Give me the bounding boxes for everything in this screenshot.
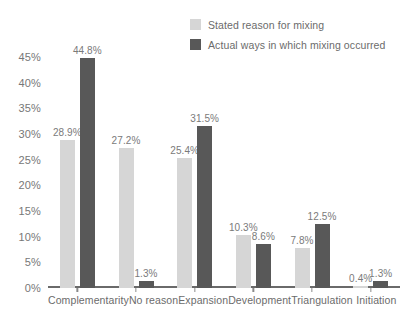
bar-value-label: 25.4% [170, 145, 199, 156]
bar-group: 27.2%1.3% [107, 57, 166, 288]
y-axis-tick-label: 5% [25, 256, 41, 268]
x-axis-category-label: Expansion [178, 294, 228, 306]
bar-group: 7.8%12.5% [283, 57, 342, 288]
bar-slot: 1.3% [139, 57, 154, 288]
bar-slot: 7.8% [295, 57, 310, 288]
x-axis-tick-mark [77, 288, 78, 292]
bar-group-bars: 0.4%1.3% [341, 57, 400, 288]
x-axis-tick-mark [311, 288, 312, 292]
legend-item-stated-reason: Stated reason for mixing [190, 16, 420, 33]
legend-item-actual-ways: Actual ways in which mixing occurred [190, 36, 420, 53]
bar[interactable] [236, 235, 251, 288]
bar-slot: 28.9% [60, 57, 75, 288]
bar-slot: 12.5% [315, 57, 330, 288]
bar-group: 0.4%1.3% [341, 57, 400, 288]
legend-label-stated-reason: Stated reason for mixing [208, 19, 324, 31]
bar-value-label: 1.3% [369, 268, 392, 279]
x-axis-tick-mark [135, 288, 136, 292]
bar-group-bars: 25.4%31.5% [165, 57, 224, 288]
x-axis-tick-mark [253, 288, 254, 292]
y-axis-tick-label: 35% [18, 102, 41, 114]
bar[interactable] [60, 140, 75, 288]
legend-swatch-icon-actual-ways [190, 39, 201, 50]
bar-group: 28.9%44.8% [48, 57, 107, 288]
x-axis-category-label: Initiation [353, 294, 400, 306]
bar[interactable] [80, 58, 95, 288]
bar[interactable] [139, 281, 154, 288]
legend-label-actual-ways: Actual ways in which mixing occurred [208, 39, 386, 51]
x-axis-category-label: No reason [129, 294, 178, 306]
bar[interactable] [197, 126, 212, 288]
bar[interactable] [119, 148, 134, 288]
bar[interactable] [353, 286, 368, 288]
bar-slot: 0.4% [353, 57, 368, 288]
bar-value-label: 12.5% [308, 211, 337, 222]
bar-group-bars: 28.9%44.8% [48, 57, 107, 288]
bar-value-label: 44.8% [73, 45, 102, 56]
x-axis-category-label: Complementarity [48, 294, 129, 306]
x-axis-category-label: Development [228, 294, 291, 306]
y-axis-tick-label: 0% [25, 282, 41, 294]
bar-value-label: 27.2% [112, 135, 141, 146]
bar[interactable] [315, 224, 330, 288]
bar[interactable] [295, 248, 310, 288]
grouped-bar-chart: Stated reason for mixing Actual ways in … [0, 0, 420, 336]
y-axis-tick-label: 30% [18, 128, 41, 140]
bar-value-label: 8.6% [252, 231, 275, 242]
x-axis-tick-mark [370, 288, 371, 292]
y-axis-tick-label: 15% [18, 205, 41, 217]
bar-group-bars: 10.3%8.6% [224, 57, 283, 288]
bar[interactable] [256, 244, 271, 288]
y-axis-tick-label: 10% [18, 231, 41, 243]
bar-group: 25.4%31.5% [165, 57, 224, 288]
y-axis-tick-label: 20% [18, 179, 41, 191]
bar-value-label: 7.8% [290, 235, 313, 246]
bar[interactable] [177, 158, 192, 288]
plot-area: 45%40%35%30%25%20%15%10%5%0% 28.9%44.8%2… [48, 57, 400, 288]
bar-slot: 8.6% [256, 57, 271, 288]
y-axis-tick-label: 45% [18, 51, 41, 63]
bar-group: 10.3%8.6% [224, 57, 283, 288]
bar-group-bars: 7.8%12.5% [283, 57, 342, 288]
bar-slot: 27.2% [119, 57, 134, 288]
bar[interactable] [373, 281, 388, 288]
chart-legend: Stated reason for mixing Actual ways in … [190, 16, 420, 56]
bar-value-label: 31.5% [190, 113, 219, 124]
legend-swatch-icon-stated-reason [190, 19, 201, 30]
bar-slot: 44.8% [80, 57, 95, 288]
bar-slot: 1.3% [373, 57, 388, 288]
y-axis-tick-label: 40% [18, 77, 41, 89]
y-axis-tick-label: 25% [18, 154, 41, 166]
bar-value-label: 28.9% [53, 127, 82, 138]
x-axis-category-label: Triangulation [291, 294, 353, 306]
x-axis-tick-mark [194, 288, 195, 292]
x-axis-labels: ComplementarityNo reasonExpansionDevelop… [48, 294, 400, 306]
bar-group-bars: 27.2%1.3% [107, 57, 166, 288]
bar-groups: 28.9%44.8%27.2%1.3%25.4%31.5%10.3%8.6%7.… [48, 57, 400, 288]
bar-value-label: 1.3% [134, 268, 157, 279]
bar-slot: 25.4% [177, 57, 192, 288]
bar-slot: 31.5% [197, 57, 212, 288]
bar-slot: 10.3% [236, 57, 251, 288]
